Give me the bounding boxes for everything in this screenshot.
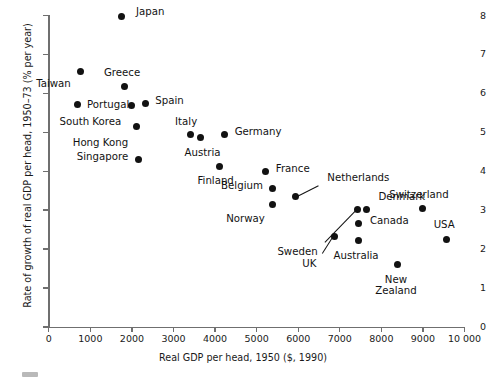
x-tick-mark [48, 327, 49, 332]
data-point [419, 205, 426, 212]
y-tick-label: 0 [450, 322, 486, 332]
x-tick-mark [339, 327, 340, 332]
y-axis-title: Rate of growth of real GDP per head, 195… [22, 11, 33, 321]
data-point [363, 206, 370, 213]
point-label: France [276, 163, 310, 174]
y-tick-label: 3 [450, 205, 486, 215]
x-tick-mark [173, 327, 174, 332]
point-label: Japan [136, 6, 164, 17]
x-tick-mark [214, 327, 215, 332]
point-label: Austria [143, 147, 263, 158]
label-leader-line [324, 209, 357, 243]
point-label: Italy [126, 116, 246, 127]
data-point [142, 100, 149, 107]
data-point [187, 131, 194, 138]
x-tick-mark [464, 327, 465, 332]
data-point [355, 237, 362, 244]
x-tick-mark [90, 327, 91, 332]
y-tick-label: 7 [450, 49, 486, 59]
data-point [355, 220, 362, 227]
point-label: USA [384, 219, 491, 230]
point-label: Australia [296, 250, 416, 261]
data-point [221, 131, 228, 138]
x-tick-mark [298, 327, 299, 332]
point-label: Belgium [221, 180, 263, 191]
data-point [121, 83, 128, 90]
data-point [269, 185, 276, 192]
data-point [135, 156, 142, 163]
point-label: Singapore [77, 151, 128, 162]
point-label: Norway [226, 213, 265, 224]
y-tick-mark [43, 93, 48, 94]
y-tick-mark [43, 248, 48, 249]
y-tick-label: 6 [450, 88, 486, 98]
data-point [118, 13, 125, 20]
y-tick-mark [43, 132, 48, 133]
point-label: Germany [235, 126, 282, 137]
data-point [443, 236, 450, 243]
point-label: South Korea [60, 116, 122, 127]
label-leader-line [295, 185, 319, 198]
x-axis-title: Real GDP per head, 1950 ($, 1990) [0, 352, 486, 363]
point-label: Taiwan [36, 78, 71, 89]
y-tick-mark [43, 209, 48, 210]
y-tick-mark [43, 287, 48, 288]
data-point [216, 163, 223, 170]
data-point [262, 168, 269, 175]
data-point [197, 134, 204, 141]
y-tick-label: 8 [450, 11, 486, 21]
y-tick-label: 2 [450, 244, 486, 254]
y-axis-line [48, 15, 50, 328]
data-point [269, 201, 276, 208]
data-point [394, 261, 401, 268]
x-tick-mark [381, 327, 382, 332]
x-tick-mark [131, 327, 132, 332]
y-tick-label: 5 [450, 127, 486, 137]
y-tick-mark [43, 171, 48, 172]
page-corner-mark [22, 372, 38, 377]
y-tick-mark [43, 15, 48, 16]
point-label: Greece [62, 67, 182, 78]
x-tick-mark [422, 327, 423, 332]
point-label: Portugal [87, 99, 129, 110]
point-label: Spain [155, 95, 183, 106]
y-tick-mark [43, 54, 48, 55]
x-tick-label: 10 000 [435, 334, 491, 344]
point-label: Hong Kong [73, 137, 128, 148]
point-label: New Zealand [336, 274, 456, 296]
data-point [74, 101, 81, 108]
y-tick-label: 4 [450, 166, 486, 176]
point-label: Switzerland [359, 189, 479, 200]
point-label: Netherlands [327, 172, 389, 183]
x-tick-mark [256, 327, 257, 332]
data-point [128, 102, 135, 109]
